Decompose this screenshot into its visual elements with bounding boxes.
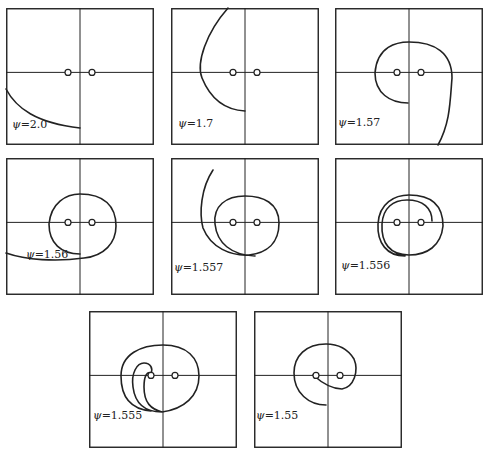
- psi-symbol: ψ: [341, 259, 350, 272]
- psi-symbol: ψ: [26, 248, 35, 261]
- psi-symbol: ψ: [174, 261, 183, 274]
- psi-label: ψ=1.7: [178, 117, 213, 130]
- panel-psi-1.55: ψ=1.55: [254, 311, 402, 448]
- trajectory-curve: [121, 345, 199, 412]
- trajectory-curve: [378, 195, 443, 256]
- field-line-plot: [335, 158, 483, 295]
- trajectory-curve: [294, 344, 356, 405]
- left-source-circle: [394, 69, 400, 75]
- psi-label: ψ=1.57: [338, 116, 380, 129]
- psi-label: ψ=1.557: [174, 261, 223, 274]
- panel-psi-2.0: ψ=2.0: [6, 8, 154, 145]
- panel-psi-1.57: ψ=1.57: [335, 8, 483, 145]
- psi-label: ψ=1.556: [341, 259, 390, 272]
- psi-value: =1.555: [102, 409, 143, 422]
- left-source-circle: [148, 372, 154, 378]
- panel-psi-1.56: ψ=1.56: [6, 158, 154, 295]
- panel-psi-1.555: ψ=1.555: [89, 311, 237, 448]
- right-source-circle: [337, 372, 343, 378]
- right-source-circle: [418, 219, 424, 225]
- psi-label: ψ=2.0: [12, 118, 47, 131]
- right-source-circle: [418, 69, 424, 75]
- psi-symbol: ψ: [178, 117, 187, 130]
- left-source-circle: [230, 219, 236, 225]
- psi-label: ψ=1.56: [26, 248, 68, 261]
- field-line-plot: [171, 158, 319, 295]
- right-source-circle: [89, 219, 95, 225]
- field-line-plot: [254, 311, 402, 448]
- field-line-plot: [89, 311, 237, 448]
- psi-value: =1.557: [183, 261, 224, 274]
- psi-label: ψ=1.55: [256, 409, 298, 422]
- psi-value: =1.56: [35, 248, 69, 261]
- trajectory-curve: [200, 8, 245, 111]
- right-source-circle: [254, 69, 260, 75]
- psi-value: =2.0: [21, 118, 48, 131]
- psi-value: =1.556: [350, 259, 391, 272]
- left-source-circle: [394, 219, 400, 225]
- right-source-circle: [172, 372, 178, 378]
- trajectory-curve: [201, 170, 279, 256]
- psi-symbol: ψ: [12, 118, 21, 131]
- panel-psi-1.7: ψ=1.7: [171, 8, 319, 145]
- panel-psi-1.556: ψ=1.556: [335, 158, 483, 295]
- psi-symbol: ψ: [93, 409, 102, 422]
- left-source-circle: [65, 69, 71, 75]
- left-source-circle: [65, 219, 71, 225]
- psi-symbol: ψ: [338, 116, 347, 129]
- trajectory-curve: [375, 42, 452, 145]
- panel-psi-1.557: ψ=1.557: [171, 158, 319, 295]
- psi-symbol: ψ: [256, 409, 265, 422]
- psi-value: =1.57: [347, 116, 381, 129]
- psi-value: =1.7: [187, 117, 214, 130]
- field-line-plot: [6, 158, 154, 295]
- right-source-circle: [254, 219, 260, 225]
- left-source-circle: [230, 69, 236, 75]
- psi-value: =1.55: [265, 409, 299, 422]
- right-source-circle: [89, 69, 95, 75]
- left-source-circle: [313, 372, 319, 378]
- psi-label: ψ=1.555: [93, 409, 142, 422]
